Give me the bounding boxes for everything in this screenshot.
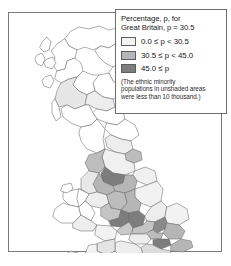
region-norfolk-suffolk — [165, 203, 189, 225]
map-figure: Percentage, p, for Great Britain, p = 30… — [0, 0, 231, 266]
legend-title: Percentage, p, for Great Britain, p = 30… — [121, 14, 221, 33]
legend-note: (The ethnic minority populations in unsh… — [121, 78, 221, 100]
legend-label-high: 45.0 ≤ p — [141, 64, 169, 73]
legend-swatch-low — [121, 37, 136, 46]
legend-swatch-high — [121, 64, 136, 73]
region-hereford-worcester — [95, 225, 117, 241]
region-avon-wiltshire — [97, 239, 115, 253]
legend-class-row: 0.0 ≤ p < 30.5 — [121, 36, 221, 48]
region-western-isles-mid — [35, 53, 45, 66]
region-western-isles-north — [40, 37, 51, 52]
legend-class-row: 30.5 ≤ p < 45.0 — [121, 49, 221, 61]
legend-swatch-mid — [121, 51, 136, 60]
legend-class-list: 0.0 ≤ p < 30.5 30.5 ≤ p < 45.0 45.0 ≤ p — [121, 36, 221, 75]
region-mull-islay — [42, 75, 54, 88]
legend-label-mid: 30.5 ≤ p < 45.0 — [141, 51, 193, 60]
legend-class-row: 45.0 ≤ p — [121, 63, 221, 75]
region-dumfries-galloway — [61, 105, 97, 127]
legend-label-low: 0.0 ≤ p < 30.5 — [141, 37, 189, 46]
region-lancashire — [85, 149, 105, 173]
region-oxfordshire-bucks — [129, 234, 151, 244]
region-kent — [171, 239, 193, 252]
figure-frame: Percentage, p, for Great Britain, p = 30… — [8, 12, 222, 252]
map-legend: Percentage, p, for Great Britain, p = 30… — [115, 9, 227, 114]
region-essex — [163, 223, 185, 239]
